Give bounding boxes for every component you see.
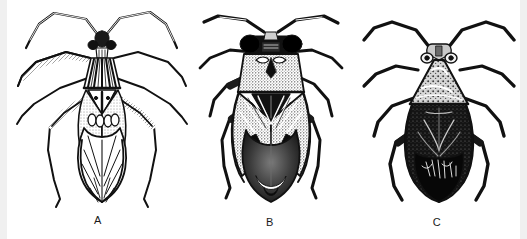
left-edge-band	[0, 0, 7, 239]
bug-b-drawing	[200, 16, 342, 202]
bug-c-drawing	[364, 22, 514, 202]
illustration-plate: A	[0, 0, 527, 239]
figure-a-label: A	[86, 214, 110, 226]
figure-c	[352, 0, 527, 239]
figure-b-label: B	[258, 216, 282, 228]
figure-b	[186, 0, 356, 239]
figure-c-label: C	[425, 216, 449, 228]
figure-a	[8, 0, 188, 239]
bug-a-drawing	[17, 12, 187, 207]
